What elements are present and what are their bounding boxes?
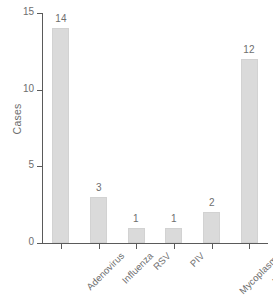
y-tick-mark [37, 90, 42, 91]
bar-value-label: 2 [192, 197, 232, 208]
bar-value-label: 14 [41, 13, 81, 24]
x-axis-line [42, 243, 268, 244]
bar [90, 197, 107, 243]
bar [165, 228, 182, 243]
y-tick-label: 0 [0, 236, 34, 247]
y-tick-label: 10 [0, 83, 34, 94]
x-category-label: RSV [151, 250, 173, 272]
x-tick-mark [99, 244, 100, 249]
y-tick-mark [37, 166, 42, 167]
x-category-label: PIV [188, 250, 207, 269]
y-axis-line [42, 13, 43, 244]
x-tick-mark [61, 244, 62, 249]
bar-chart: Cases 051015 14311212 AdenovirusInfluenz… [0, 0, 273, 299]
bar [52, 28, 69, 243]
x-category-label: Mycoplasma [237, 250, 273, 296]
y-tick-mark [37, 243, 42, 244]
x-category-label: Adenovirus [84, 250, 126, 292]
x-tick-mark [136, 244, 137, 249]
y-tick-label: 5 [0, 159, 34, 170]
bar [203, 212, 220, 243]
x-tick-mark [174, 244, 175, 249]
bar-value-label: 1 [154, 213, 194, 224]
y-axis-title: Cases [11, 89, 23, 149]
bar [128, 228, 145, 243]
bar-value-label: 1 [116, 213, 156, 224]
y-tick-label: 15 [0, 6, 34, 17]
x-tick-mark [212, 244, 213, 249]
bar-value-label: 12 [229, 44, 269, 55]
bar-value-label: 3 [79, 182, 119, 193]
bar [241, 59, 258, 243]
x-tick-mark [249, 244, 250, 249]
